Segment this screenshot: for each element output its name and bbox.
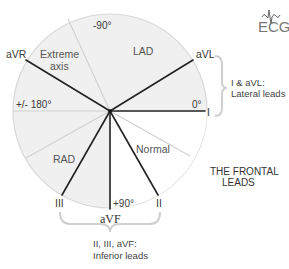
lateral-leads-label-2: Lateral leads <box>231 88 286 99</box>
degree-label-plus90: +90° <box>113 198 134 209</box>
lead-label-I: I <box>207 106 210 118</box>
degree-label-minus90: -90° <box>93 20 111 31</box>
title-line-2: LEADS <box>222 177 255 188</box>
sector-label-normal: Normal <box>136 143 170 155</box>
degree-label-180: +/- 180° <box>16 99 51 110</box>
lead-label-aVL: aVL <box>196 48 215 60</box>
sector-label-extreme-1: Extreme <box>40 48 79 60</box>
lead-label-II: II <box>156 197 162 209</box>
title-line-1: THE FRONTAL <box>210 166 279 177</box>
ecg-logo-text: ECG <box>258 18 289 35</box>
lead-label-III: III <box>55 197 64 209</box>
sector-label-extreme-2: axis <box>50 60 69 72</box>
sector-label-rad: RAD <box>53 153 76 165</box>
sector-label-lad: LAD <box>133 45 154 57</box>
inferior-leads-label-1: II, III, aVF: <box>93 238 137 249</box>
normal-sector <box>110 111 207 208</box>
lateral-leads-label-1: I & aVL: <box>231 77 265 88</box>
center-point <box>108 109 112 113</box>
lead-label-aVR: aVR <box>6 48 27 60</box>
frontal-leads-diagram: aVR aVL I III II aVF -90° 0° +/- 180° +9… <box>0 0 289 269</box>
inferior-leads-label-2: Inferior leads <box>93 250 148 261</box>
ecg-logo: ECG <box>258 10 289 35</box>
lateral-leads-brace <box>215 56 227 116</box>
degree-label-zero: 0° <box>192 99 202 110</box>
